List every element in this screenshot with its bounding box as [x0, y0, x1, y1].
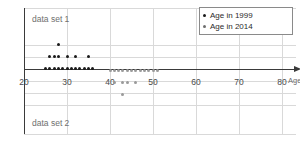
data-point	[134, 69, 137, 72]
gridline-horizontal	[24, 134, 296, 135]
data-point	[113, 69, 116, 72]
data-point	[126, 69, 129, 72]
data-point	[61, 67, 64, 70]
data-point	[91, 67, 94, 70]
gridline-horizontal	[24, 57, 296, 58]
gridline-vertical	[67, 8, 68, 134]
chart-legend: Age in 1999Age in 2014	[199, 7, 293, 35]
data-point	[53, 55, 56, 58]
data-point	[126, 81, 129, 84]
data-set-2-label: data set 2	[32, 118, 69, 128]
legend-marker-icon	[203, 25, 206, 28]
gridline-horizontal	[24, 45, 296, 46]
data-point	[74, 55, 77, 58]
data-point	[156, 69, 159, 72]
data-point	[117, 69, 120, 72]
data-point	[130, 69, 133, 72]
data-point	[66, 67, 69, 70]
data-point	[139, 69, 142, 72]
x-tick-label: 40	[96, 77, 124, 87]
x-tick-label: 70	[225, 77, 253, 87]
legend-marker-icon	[203, 14, 206, 17]
x-axis-title: Age	[288, 76, 300, 85]
legend-label: Age in 1999	[210, 10, 253, 21]
data-point	[74, 67, 77, 70]
x-tick-label: 60	[182, 77, 210, 87]
x-axis	[24, 69, 294, 70]
data-point	[152, 81, 155, 84]
data-point	[53, 67, 56, 70]
legend-item[interactable]: Age in 1999	[203, 10, 288, 21]
gridline-horizontal	[24, 93, 296, 94]
data-point	[44, 67, 47, 70]
data-point	[152, 69, 155, 72]
x-axis-arrow-icon	[294, 66, 300, 72]
data-point	[147, 69, 150, 72]
data-point	[143, 69, 146, 72]
x-tick-label: 20	[10, 77, 38, 87]
data-point	[66, 55, 69, 58]
data-point	[109, 69, 112, 72]
data-point	[83, 67, 86, 70]
y-axis	[24, 8, 25, 134]
data-point	[70, 67, 73, 70]
data-set-1-label: data set 1	[32, 14, 69, 24]
legend-item[interactable]: Age in 2014	[203, 21, 288, 32]
data-point	[134, 81, 137, 84]
legend-label: Age in 2014	[210, 21, 253, 32]
data-point	[48, 55, 51, 58]
data-point	[57, 55, 60, 58]
x-tick-label: 30	[53, 77, 81, 87]
data-point	[48, 67, 51, 70]
data-point	[57, 67, 60, 70]
dot-plot-chart: 20304050607080Agedata set 1data set 2 Ag…	[0, 0, 300, 145]
data-point	[57, 43, 60, 46]
data-point	[113, 81, 116, 84]
data-point	[87, 67, 90, 70]
gridline-horizontal	[24, 105, 296, 106]
data-point	[87, 55, 90, 58]
gridline-vertical	[196, 8, 197, 134]
